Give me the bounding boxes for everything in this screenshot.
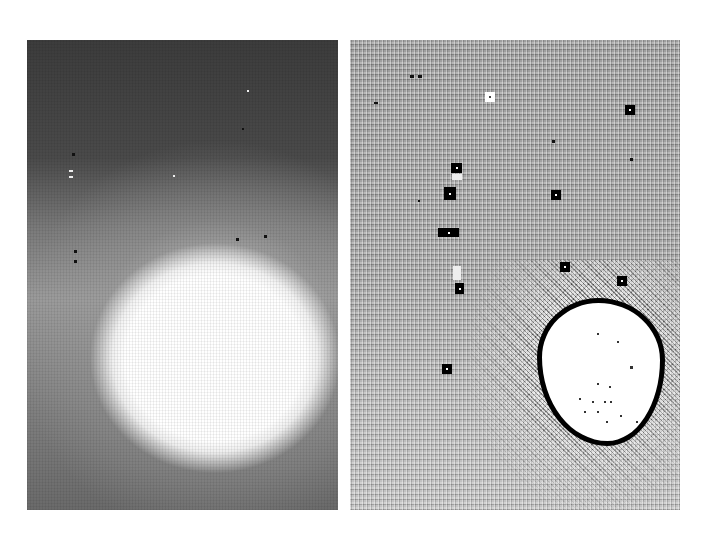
speck bbox=[636, 421, 638, 423]
speck bbox=[410, 75, 414, 78]
speck bbox=[374, 102, 378, 104]
speck bbox=[597, 333, 599, 335]
speck bbox=[620, 415, 622, 417]
speck bbox=[69, 170, 73, 172]
segmented-region-outline bbox=[537, 298, 665, 446]
detection-marker bbox=[438, 228, 459, 237]
speck bbox=[452, 174, 462, 180]
speck bbox=[579, 398, 581, 400]
speck bbox=[247, 90, 249, 92]
speck bbox=[69, 176, 73, 178]
detection-marker bbox=[451, 163, 462, 173]
speck bbox=[617, 341, 619, 343]
speck bbox=[418, 200, 420, 202]
speck bbox=[236, 238, 239, 241]
speck bbox=[604, 401, 606, 403]
speck bbox=[597, 383, 599, 385]
detection-marker bbox=[551, 190, 561, 200]
speck bbox=[592, 401, 594, 403]
detection-marker bbox=[455, 283, 464, 294]
left-image-panel bbox=[27, 40, 338, 510]
speck bbox=[264, 235, 267, 238]
detection-marker bbox=[442, 364, 452, 374]
speck bbox=[630, 366, 633, 369]
detection-marker bbox=[560, 262, 570, 272]
speck bbox=[74, 250, 77, 253]
speck bbox=[630, 158, 633, 161]
speck bbox=[552, 140, 555, 143]
speck bbox=[609, 386, 611, 388]
detection-marker-white bbox=[485, 92, 495, 102]
speck bbox=[74, 260, 77, 263]
detection-marker bbox=[625, 105, 635, 115]
speck bbox=[610, 401, 612, 403]
speck bbox=[242, 128, 244, 130]
speck bbox=[584, 411, 586, 413]
speck bbox=[453, 266, 461, 280]
speck bbox=[606, 421, 608, 423]
speck bbox=[72, 153, 75, 156]
detection-marker bbox=[617, 276, 627, 286]
detection-marker bbox=[444, 187, 456, 200]
speck bbox=[597, 411, 599, 413]
right-image-panel bbox=[350, 40, 680, 510]
speck bbox=[173, 175, 175, 177]
speck bbox=[418, 75, 422, 78]
